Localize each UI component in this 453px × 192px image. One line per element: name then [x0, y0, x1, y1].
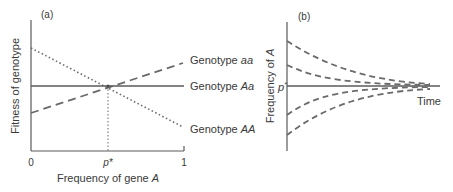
y-axis-label: Fitness of genotype	[9, 38, 21, 134]
x-axis-label: Frequency of gene A	[57, 172, 159, 184]
x-axis-label: Time	[417, 95, 441, 107]
label-genotype-aa: Genotype aa	[190, 54, 253, 66]
trajectory-1	[287, 41, 430, 84]
y-axis-label: Frequency of A	[264, 49, 276, 124]
panel-b: (b) p* Time Frequency of A	[264, 11, 441, 151]
trajectory-4	[287, 89, 430, 135]
trajectory-2	[287, 65, 430, 85]
panel-a-label: (a)	[41, 9, 53, 20]
panel-b-label: (b)	[298, 11, 310, 22]
equilibrium-point	[107, 85, 110, 88]
label-genotype-AA: Genotype AA	[190, 123, 255, 135]
x-tick-1: 1	[181, 157, 187, 168]
panel-a: (a) 0 p* 1 Frequency of gene A Fitness o…	[9, 9, 255, 184]
y-tick-p-star: p*	[277, 81, 287, 93]
x-tick-0: 0	[28, 157, 34, 168]
label-genotype-Aa: Genotype Aa	[190, 80, 254, 92]
line-genotype-aa	[31, 63, 183, 113]
figure: (a) 0 p* 1 Frequency of gene A Fitness o…	[0, 0, 453, 192]
x-tick-p-star: p*	[102, 157, 114, 168]
